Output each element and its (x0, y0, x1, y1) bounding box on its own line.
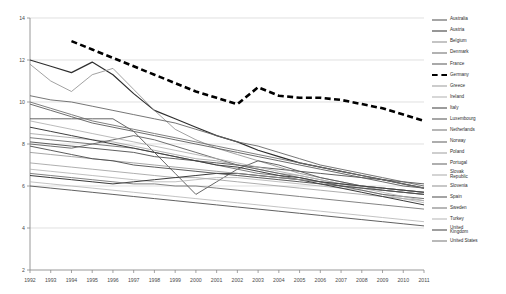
legend-item-slovak-republic[interactable]: Slovak Republic (432, 169, 506, 180)
legend-item-label: Australia (450, 17, 468, 22)
legend-item-label: Spain (450, 195, 462, 200)
x-tick-label: 2003 (252, 277, 264, 283)
legend-swatch-icon (432, 160, 447, 167)
x-tick-label: 1993 (45, 277, 57, 283)
legend-item-label: Poland (450, 150, 464, 155)
legend-item-label: Denmark (450, 50, 469, 55)
x-tick-label: 2002 (232, 277, 244, 283)
legend-item-label: Netherlands (450, 128, 475, 133)
legend-item-norway[interactable]: Norway (432, 136, 506, 147)
y-tick-label: 4 (22, 225, 25, 231)
chart-plot-area: 2468101214199219931994199519961997199819… (0, 0, 506, 294)
x-tick-label: 1994 (66, 277, 78, 283)
series-line-spain[interactable] (30, 146, 424, 194)
legend-item-united-states[interactable]: United States (432, 236, 506, 247)
x-tick-label: 2001 (211, 277, 223, 283)
legend-item-luxembourg[interactable]: Luxembourg (432, 114, 506, 125)
x-tick-label: 1997 (128, 277, 140, 283)
legend-swatch-icon (432, 138, 447, 145)
legend-item-label: Italy (450, 106, 458, 111)
legend-item-label: France (450, 62, 464, 67)
x-tick-label: 2008 (356, 277, 368, 283)
legend-item-label: Germany (450, 73, 469, 78)
legend-swatch-icon (432, 38, 447, 45)
legend-item-france[interactable]: France (432, 58, 506, 69)
legend-item-label: Norway (450, 139, 466, 144)
line-chart: 2468101214199219931994199519961997199819… (0, 0, 506, 294)
legend-swatch-icon (432, 49, 447, 56)
legend-item-label: Luxembourg (450, 117, 476, 122)
series-line-poland[interactable] (30, 134, 424, 193)
chart-legend: AustraliaAustriaBelgiumDenmarkFranceGerm… (432, 14, 506, 282)
legend-item-italy[interactable]: Italy (432, 103, 506, 114)
legend-item-poland[interactable]: Poland (432, 147, 506, 158)
x-tick-label: 2011 (418, 277, 429, 283)
legend-item-label: Ireland (450, 95, 464, 100)
legend-swatch-icon (432, 227, 447, 234)
legend-item-portugal[interactable]: Portugal (432, 158, 506, 169)
x-tick-label: 2000 (190, 277, 202, 283)
x-tick-label: 1995 (86, 277, 98, 283)
legend-item-greece[interactable]: Greece (432, 81, 506, 92)
legend-item-slovenia[interactable]: Slovenia (432, 180, 506, 191)
legend-item-label: Turkey (450, 217, 464, 222)
legend-item-label: Greece (450, 84, 465, 89)
legend-swatch-icon (432, 216, 447, 223)
legend-swatch-icon (432, 94, 447, 101)
legend-swatch-icon (432, 83, 447, 90)
y-tick-label: 8 (22, 141, 25, 147)
legend-item-australia[interactable]: Australia (432, 14, 506, 25)
legend-swatch-icon (432, 60, 447, 67)
x-tick-label: 2004 (273, 277, 285, 283)
y-tick-label: 10 (19, 99, 25, 105)
legend-item-label: United States (450, 239, 478, 244)
legend-swatch-icon (432, 149, 447, 156)
legend-swatch-icon (432, 182, 447, 189)
series-line-germany[interactable] (71, 41, 424, 121)
legend-item-label: Slovak Republic (450, 170, 468, 180)
legend-item-germany[interactable]: Germany (432, 69, 506, 80)
y-tick-label: 6 (22, 183, 25, 189)
legend-item-turkey[interactable]: Turkey (432, 214, 506, 225)
legend-swatch-icon (432, 116, 447, 123)
x-tick-label: 1998 (149, 277, 161, 283)
series-line-turkey[interactable] (30, 182, 424, 222)
legend-swatch-icon (432, 16, 447, 23)
legend-item-sweden[interactable]: Sweden (432, 203, 506, 214)
series-line-united-kingdom[interactable] (30, 127, 424, 192)
legend-item-netherlands[interactable]: Netherlands (432, 125, 506, 136)
legend-item-spain[interactable]: Spain (432, 192, 506, 203)
series-line-france[interactable] (30, 119, 424, 195)
legend-swatch-icon (432, 171, 447, 178)
legend-swatch-icon (432, 72, 447, 79)
x-tick-label: 2005 (294, 277, 306, 283)
legend-swatch-icon (432, 127, 447, 134)
legend-swatch-icon (432, 194, 447, 201)
series-line-luxembourg[interactable] (30, 186, 424, 226)
y-tick-label: 14 (19, 15, 25, 21)
y-tick-label: 2 (22, 267, 25, 273)
x-tick-label: 2010 (397, 277, 409, 283)
x-tick-label: 1996 (107, 277, 119, 283)
legend-item-label: Austria (450, 28, 464, 33)
legend-swatch-icon (432, 27, 447, 34)
legend-item-label: United Kingdom (450, 226, 468, 236)
x-tick-label: 2007 (335, 277, 347, 283)
legend-item-label: Slovenia (450, 184, 468, 189)
legend-item-label: Sweden (450, 206, 467, 211)
legend-item-label: Belgium (450, 39, 467, 44)
legend-swatch-icon (432, 205, 447, 212)
legend-swatch-icon (432, 238, 447, 245)
legend-item-belgium[interactable]: Belgium (432, 36, 506, 47)
legend-item-austria[interactable]: Austria (432, 25, 506, 36)
x-tick-label: 1999 (169, 277, 181, 283)
legend-item-ireland[interactable]: Ireland (432, 92, 506, 103)
y-tick-label: 12 (19, 57, 25, 63)
legend-swatch-icon (432, 105, 447, 112)
legend-item-united-kingdom[interactable]: United Kingdom (432, 225, 506, 236)
legend-item-denmark[interactable]: Denmark (432, 47, 506, 58)
x-tick-label: 2009 (377, 277, 389, 283)
legend-item-label: Portugal (450, 161, 467, 166)
x-tick-label: 1992 (24, 277, 36, 283)
x-tick-label: 2006 (315, 277, 327, 283)
